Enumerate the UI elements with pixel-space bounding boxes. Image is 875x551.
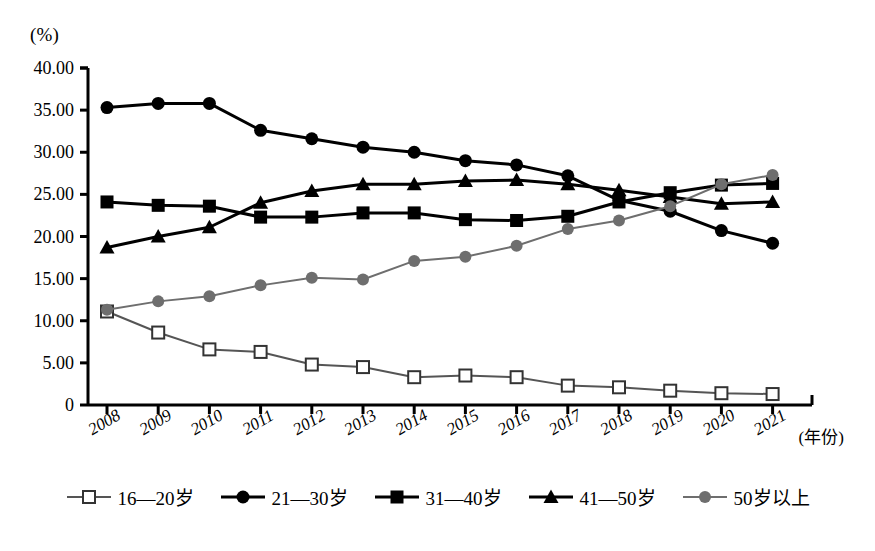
svg-text:(年份): (年份) (799, 428, 844, 447)
line-chart-plot: 40.0035.0030.0025.0020.0015.0010.005.000… (0, 0, 875, 551)
x-axis-unit-label: (年份) (799, 428, 844, 447)
svg-text:2014: 2014 (392, 405, 431, 439)
chart-container: (%) 40.0035.0030.0025.0020.0015.0010.005… (0, 0, 875, 551)
x-axis-tick-labels: 2008200920102011201220132014201520162017… (85, 405, 790, 439)
svg-text:2012: 2012 (290, 405, 329, 439)
legend-label: 50岁以上 (734, 483, 810, 510)
legend-marker-filled-square-icon (374, 487, 420, 507)
axis-lines (80, 68, 812, 405)
svg-text:2017: 2017 (546, 405, 586, 439)
svg-text:40.00: 40.00 (34, 58, 75, 78)
legend-item-1[interactable]: 16—20岁 (66, 483, 194, 510)
svg-text:2013: 2013 (341, 406, 380, 439)
legend-marker-filled-triangle-icon (528, 487, 574, 507)
legend-label: 41—50岁 (580, 483, 656, 510)
legend-label: 31—40岁 (426, 483, 502, 510)
legend-marker-open-square-icon (66, 487, 112, 507)
series-31—40岁 (101, 177, 780, 227)
svg-text:15.00: 15.00 (34, 269, 75, 289)
legend-item-5[interactable]: 50岁以上 (682, 483, 810, 510)
svg-text:0: 0 (65, 395, 74, 415)
svg-text:2011: 2011 (239, 406, 277, 439)
legend-label: 21—30岁 (272, 483, 348, 510)
svg-text:2009: 2009 (136, 405, 175, 439)
svg-text:2020: 2020 (699, 405, 738, 439)
data-series-layer (100, 97, 781, 400)
y-axis-ticks: 40.0035.0030.0025.0020.0015.0010.005.000 (34, 58, 89, 415)
svg-text:2019: 2019 (648, 405, 687, 439)
svg-text:35.00: 35.00 (34, 100, 75, 120)
svg-text:25.00: 25.00 (34, 184, 75, 204)
legend-marker-filled-circle-icon (220, 487, 266, 507)
legend-item-2[interactable]: 21—30岁 (220, 483, 348, 510)
svg-text:2010: 2010 (187, 405, 226, 439)
legend-marker-filled-circle-gray-icon (682, 487, 728, 507)
legend-label: 16—20岁 (118, 483, 194, 510)
legend-item-3[interactable]: 31—40岁 (374, 483, 502, 510)
series-16—20岁 (101, 305, 779, 400)
svg-text:10.00: 10.00 (34, 311, 75, 331)
chart-legend: 16—20岁21—30岁31—40岁41—50岁50岁以上 (0, 483, 875, 510)
svg-text:2008: 2008 (85, 405, 124, 439)
svg-text:20.00: 20.00 (34, 227, 75, 247)
legend-item-4[interactable]: 41—50岁 (528, 483, 656, 510)
svg-text:2015: 2015 (443, 406, 482, 439)
svg-text:5.00: 5.00 (43, 353, 75, 373)
series-21—30岁 (101, 97, 780, 250)
svg-text:2016: 2016 (494, 405, 533, 439)
svg-text:2018: 2018 (597, 405, 636, 439)
svg-text:2021: 2021 (750, 406, 789, 439)
svg-text:30.00: 30.00 (34, 142, 75, 162)
